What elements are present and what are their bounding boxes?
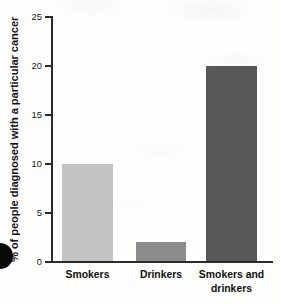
bar-chart: % of people diagnosed with a particular … xyxy=(0,0,280,304)
bar-drinkers xyxy=(136,242,186,262)
y-tick-mark xyxy=(45,261,51,262)
y-tick-mark xyxy=(45,212,51,213)
y-axis-line xyxy=(51,16,53,263)
y-tick-mark xyxy=(45,114,51,115)
plot-area xyxy=(51,17,273,262)
bar-smokers xyxy=(62,164,113,262)
x-axis-line xyxy=(51,261,273,263)
x-axis-label-line: Smokers and xyxy=(172,268,281,282)
y-tick-mark xyxy=(45,65,51,66)
x-axis-label-smokers-and-drinkers: Smokers anddrinkers xyxy=(172,268,281,295)
y-tick-mark xyxy=(45,163,51,164)
bar-smokers-and-drinkers xyxy=(206,66,257,262)
y-tick-mark xyxy=(45,16,51,17)
x-axis-label-line: drinkers xyxy=(172,282,281,296)
y-axis-title: % of people diagnosed with a particular … xyxy=(3,0,25,262)
